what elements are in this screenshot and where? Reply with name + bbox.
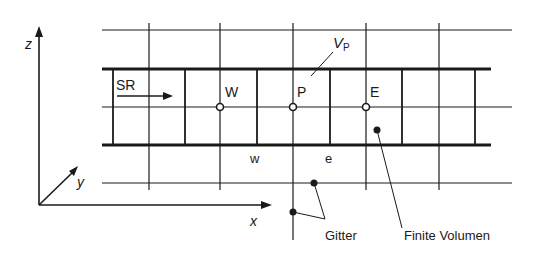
grid-leader-line — [293, 183, 325, 219]
node-p-label: P — [297, 84, 306, 100]
node-w-icon — [217, 104, 224, 111]
y-axis — [39, 172, 73, 205]
grid-lines-vertical — [149, 23, 439, 240]
arrowhead-icon — [163, 92, 173, 100]
grid-lines-horizontal — [102, 30, 512, 183]
flow-arrow — [117, 92, 173, 100]
coordinate-axes — [39, 34, 263, 205]
node-e-icon — [363, 104, 370, 111]
y-axis-label: y — [76, 174, 85, 190]
node-e-label: E — [370, 84, 379, 100]
volume-label: VP — [333, 34, 350, 53]
node-w-label: W — [225, 84, 239, 100]
z-arrowhead-icon — [35, 26, 43, 37]
x-axis-label: x — [249, 213, 258, 229]
z-axis-label: z — [24, 36, 32, 52]
face-e-label: e — [325, 151, 332, 166]
finite-volume-diagram: SR VP W P E w e Finite Volumen Gitter z … — [0, 0, 541, 256]
face-w-label: w — [249, 151, 260, 166]
grid-label: Gitter — [325, 228, 357, 243]
flow-label: SR — [116, 77, 135, 93]
node-p-icon — [290, 104, 297, 111]
x-arrowhead-icon — [261, 201, 272, 209]
finite-volume-label: Finite Volumen — [404, 228, 490, 243]
